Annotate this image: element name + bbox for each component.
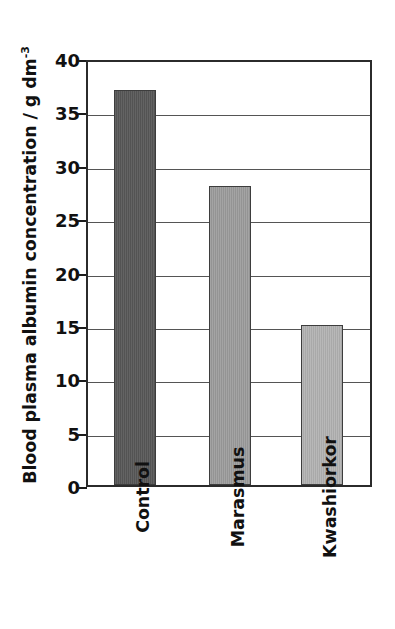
x-axis-label-text: Kwashiorkor — [320, 436, 340, 558]
y-axis-tick-label: 15 — [55, 316, 80, 337]
y-axis-tick-label: 40 — [55, 50, 80, 71]
plot-area — [86, 60, 372, 487]
y-axis-tick-label: 20 — [55, 263, 80, 284]
y-axis-tick-labels: 0510152025303540 — [52, 45, 80, 505]
y-axis-title: Blood plasma albumin concentration / g d… — [8, 40, 52, 490]
y-axis-title-label: Blood plasma albumin concentration / g d… — [20, 58, 40, 484]
y-axis-tick-label: 35 — [55, 103, 80, 124]
x-axis-label-kwashiorkor: Kwashiorkor — [300, 497, 340, 629]
x-axis-label-control: Control — [113, 497, 153, 629]
x-axis-label-text: Marasmus — [228, 447, 248, 547]
bar-chart-figure: Blood plasma albumin concentration / g d… — [0, 0, 395, 629]
y-axis-tick-mark — [78, 487, 87, 489]
bar-marasmus — [209, 186, 251, 485]
y-axis-tick-label: 10 — [55, 370, 80, 391]
y-axis-tick-label: 25 — [55, 210, 80, 231]
y-axis-title-exponent: -3 — [19, 46, 32, 58]
x-axis-label-marasmus: Marasmus — [208, 497, 248, 629]
y-axis-title-text: Blood plasma albumin concentration / g d… — [20, 46, 40, 484]
x-axis-label-text: Control — [133, 461, 153, 533]
y-axis-tick-label: 30 — [55, 156, 80, 177]
bar-control — [114, 90, 156, 485]
